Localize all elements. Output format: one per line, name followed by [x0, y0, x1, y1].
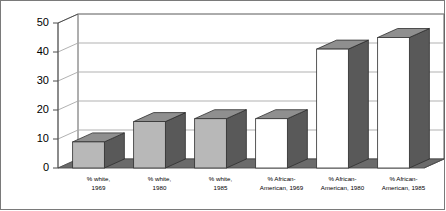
- x-category-label-4: % African-: [267, 175, 295, 182]
- axis-depth-tick: [58, 101, 78, 110]
- x-category-label-6: American, 1985: [382, 184, 426, 191]
- y-tick-label-30: 30: [37, 74, 49, 86]
- y-axis-top-depth: [58, 14, 78, 23]
- bar-5: [317, 40, 369, 168]
- x-category-label-4: American, 1969: [260, 184, 304, 191]
- axis-depth-tick: [58, 43, 78, 52]
- bar-front-face: [73, 142, 105, 168]
- bar-2: [134, 113, 186, 168]
- x-category-label-3: % white,: [209, 175, 233, 182]
- x-category-label-1: % white,: [87, 175, 111, 182]
- axis-depth-tick: [58, 130, 78, 139]
- bar-3: [195, 110, 247, 168]
- bar-side-face: [348, 40, 368, 168]
- axis-depth-tick: [58, 72, 78, 81]
- bar-4: [256, 110, 308, 168]
- bar-front-face: [195, 119, 227, 168]
- x-category-label-5: % African-: [328, 175, 356, 182]
- x-category-label-2: % white,: [148, 175, 172, 182]
- bar-side-face: [409, 29, 429, 169]
- x-category-label-6: % African-: [389, 175, 417, 182]
- bar-front-face: [378, 38, 410, 169]
- bar-front-face: [317, 49, 349, 168]
- y-tick-label-10: 10: [37, 132, 49, 144]
- x-category-label-2: 1980: [153, 184, 167, 191]
- y-tick-label-20: 20: [37, 103, 49, 115]
- y-tick-label-0: 0: [43, 161, 49, 173]
- bar-1: [73, 133, 125, 168]
- chart-figure: 01020304050% white,1969% white,1980% whi…: [0, 0, 446, 211]
- bar-front-face: [256, 119, 288, 168]
- y-tick-label-50: 50: [37, 16, 49, 28]
- bar-front-face: [134, 122, 166, 168]
- y-tick-label-40: 40: [37, 45, 49, 57]
- bar-6: [378, 29, 430, 169]
- x-category-label-3: 1985: [214, 184, 228, 191]
- bar-side-face: [226, 110, 246, 168]
- x-category-label-5: American, 1980: [321, 184, 365, 191]
- x-category-label-1: 1969: [92, 184, 106, 191]
- bar-chart-3d: 01020304050% white,1969% white,1980% whi…: [0, 0, 446, 211]
- bar-side-face: [287, 110, 307, 168]
- bar-side-face: [165, 113, 185, 168]
